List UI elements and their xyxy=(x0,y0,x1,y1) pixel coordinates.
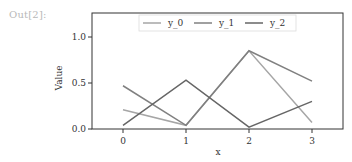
x-tick-label: 3 xyxy=(309,136,315,146)
y-axis-ticks: 0.00.51.0 xyxy=(72,32,92,134)
x-axis-label: x xyxy=(215,147,220,157)
series-line-y-1 xyxy=(123,51,312,126)
x-tick-label: 1 xyxy=(183,136,189,146)
y-tick-label: 0.0 xyxy=(72,124,87,134)
x-tick-label: 0 xyxy=(120,136,126,146)
legend-label-y-0: y_0 xyxy=(167,18,184,29)
y-tick-label: 1.0 xyxy=(72,32,87,42)
line-chart: 0.00.51.0 0123 Value x y_0y_1y_2 xyxy=(0,0,352,162)
legend-label-y-2: y_2 xyxy=(269,18,285,29)
y-tick-label: 0.5 xyxy=(72,78,87,88)
series-lines xyxy=(123,51,312,127)
legend: y_0y_1y_2 xyxy=(139,15,296,31)
x-axis-ticks: 0123 xyxy=(120,129,315,146)
x-tick-label: 2 xyxy=(246,136,252,146)
y-axis-label: Value xyxy=(54,65,64,91)
legend-label-y-1: y_1 xyxy=(218,18,234,29)
